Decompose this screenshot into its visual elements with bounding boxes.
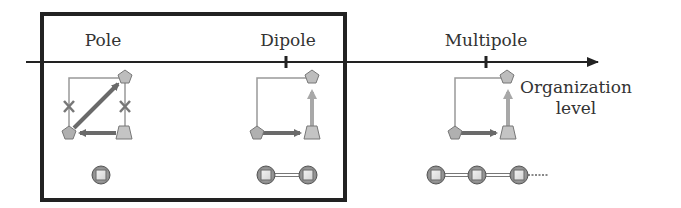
organization-level-diagram: Pole Dipole Multipole Organization level <box>0 0 681 208</box>
pentagon-node-icon <box>448 126 462 139</box>
pole-ball-icon <box>299 166 317 184</box>
multipole-chain <box>427 166 549 184</box>
pole-ball-icon <box>427 166 445 184</box>
pole-ball-icon <box>510 166 528 184</box>
pole-ball-icon <box>468 166 486 184</box>
dipole-network <box>250 70 320 139</box>
axis-label-line1: Organization <box>520 77 632 97</box>
trapezoid-node-icon <box>500 126 516 139</box>
pole-chain <box>92 166 110 184</box>
stage-label-multipole: Multipole <box>445 30 528 50</box>
pole-network <box>62 70 132 139</box>
pentagon-node-icon <box>62 126 76 139</box>
pole-ball-icon <box>257 166 275 184</box>
pentagon-node-icon <box>250 126 264 139</box>
multipole-network <box>448 70 516 139</box>
stage-label-dipole: Dipole <box>260 30 316 50</box>
pentagon-node-icon <box>118 70 132 83</box>
pole-ball-icon <box>92 166 110 184</box>
pentagon-node-icon <box>305 70 319 83</box>
trapezoid-node-icon <box>116 126 132 139</box>
stage-label-pole: Pole <box>85 30 121 50</box>
dipole-chain <box>257 166 317 184</box>
trapezoid-node-icon <box>304 126 320 139</box>
pentagon-node-icon <box>500 70 514 83</box>
axis-label-line2: level <box>556 98 597 118</box>
